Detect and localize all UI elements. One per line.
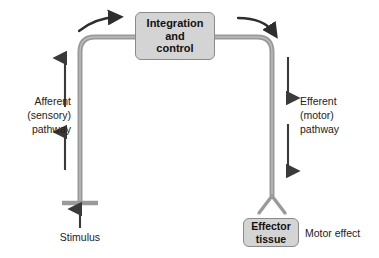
stimulus-label: Stimulus: [42, 231, 118, 245]
effector-node-label: Effector tissue: [251, 220, 291, 245]
afferent-pathway-label: Afferent (sensory) pathway: [11, 95, 71, 137]
integration-and-control-node: Integration and control: [135, 12, 215, 60]
efferent-line-3: pathway: [300, 123, 339, 135]
efferent-pathway-label: Efferent (motor) pathway: [300, 95, 370, 137]
integration-line-2: and: [165, 30, 185, 42]
effector-tissue-node: Effector tissue: [243, 218, 299, 247]
efferent-pathway-line: [214, 37, 272, 196]
efferent-line-2: (motor): [300, 109, 334, 121]
afferent-line-3: pathway: [32, 123, 71, 135]
effector-line-1: Effector: [251, 220, 291, 232]
afferent-line-1: Afferent: [34, 95, 71, 107]
integration-node-label: Integration and control: [147, 17, 204, 56]
outbound-curved-arrow: [238, 18, 274, 33]
effector-terminal-fork: [259, 196, 285, 213]
effector-line-2: tissue: [256, 233, 286, 245]
motor-effect-label: Motor effect: [305, 227, 379, 241]
afferent-line-2: (sensory): [27, 109, 71, 121]
integration-line-3: control: [156, 42, 193, 54]
afferent-pathway-line: [80, 37, 136, 203]
efferent-line-1: Efferent: [300, 95, 337, 107]
integration-line-1: Integration: [147, 17, 204, 29]
inbound-curved-arrow: [79, 17, 117, 31]
reflex-pathway-diagram: Integration and control Effector tissue …: [0, 0, 379, 258]
